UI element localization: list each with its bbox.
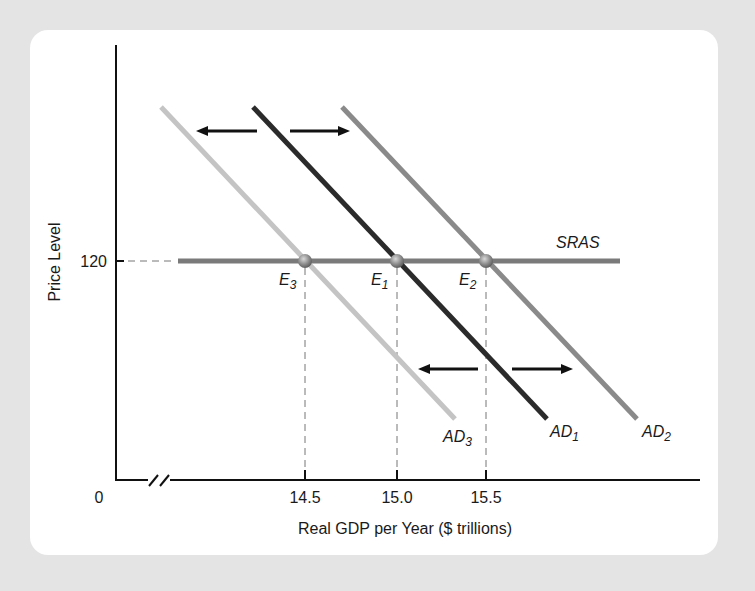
ad3-label: AD3 bbox=[442, 428, 472, 449]
ad2-label: AD2 bbox=[641, 423, 671, 444]
equilibrium-e1 bbox=[390, 254, 404, 268]
e3-label: E3 bbox=[279, 271, 297, 292]
chart-svg: SRAS E3 E1 E2 AD3 AD1 AD2 120 0 14.5 15.… bbox=[0, 0, 755, 591]
origin-label: 0 bbox=[95, 489, 104, 506]
ad1-label: AD1 bbox=[549, 423, 579, 444]
axis-break-icon bbox=[148, 474, 170, 486]
x-tick-15-0: 15.0 bbox=[381, 489, 412, 506]
y-tick-120: 120 bbox=[80, 253, 107, 270]
x-tick-15-5: 15.5 bbox=[470, 489, 501, 506]
y-axis-title: Price Level bbox=[46, 222, 63, 301]
sras-label: SRAS bbox=[556, 234, 600, 251]
equilibrium-e2 bbox=[479, 254, 493, 268]
e1-label: E1 bbox=[371, 271, 388, 292]
x-axis-title: Real GDP per Year ($ trillions) bbox=[298, 520, 512, 537]
equilibrium-e3 bbox=[298, 254, 312, 268]
e2-label: E2 bbox=[459, 271, 477, 292]
x-tick-14-5: 14.5 bbox=[289, 489, 320, 506]
